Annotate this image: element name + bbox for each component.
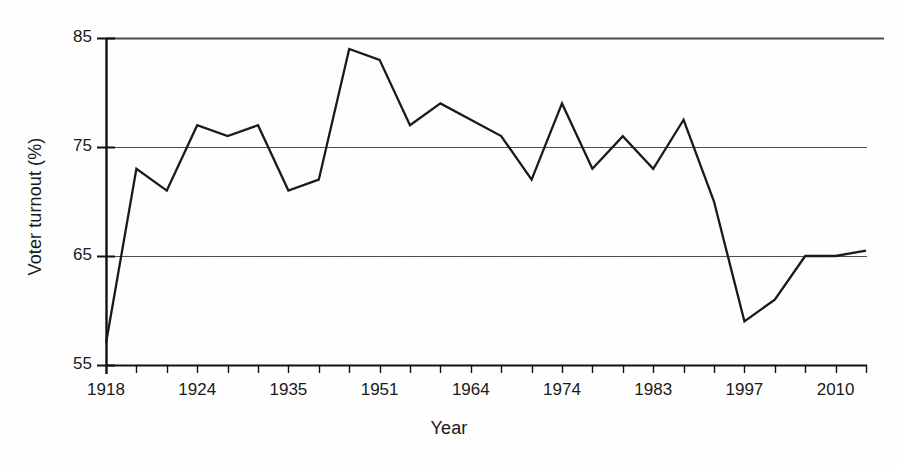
x-tick-label-1951: 1951: [340, 380, 420, 400]
x-tick-label-1924: 1924: [157, 380, 237, 400]
x-tick-label-1974: 1974: [522, 380, 602, 400]
x-tick-label-2010: 2010: [796, 380, 876, 400]
data-series-line: [106, 49, 866, 343]
x-axis-title: Year: [0, 418, 898, 439]
x-tick-label-1964: 1964: [431, 380, 511, 400]
chart-container: 85756555 1918192419351951196419741983199…: [0, 0, 898, 467]
y-tick-label-55: 55: [36, 354, 92, 374]
x-tick-label-1935: 1935: [248, 380, 328, 400]
gridlines: [106, 39, 884, 257]
y-tick-label-85: 85: [36, 27, 92, 47]
chart-axes: [106, 38, 867, 366]
x-tick-label-1983: 1983: [613, 380, 693, 400]
y-axis-title: Voter turnout (%): [25, 97, 46, 317]
x-tick-label-1918: 1918: [66, 380, 146, 400]
x-tick-label-1997: 1997: [704, 380, 784, 400]
